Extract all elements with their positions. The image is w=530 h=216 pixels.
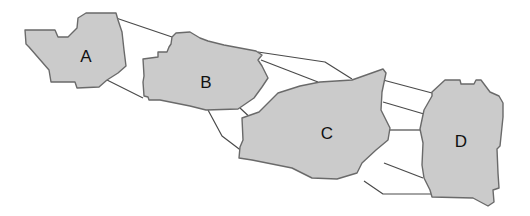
- link-b-c-top-1: [258, 52, 352, 79]
- region-diagram: A B C D: [0, 0, 530, 216]
- region-a-label: A: [80, 47, 92, 66]
- region-b-shape: [143, 32, 268, 110]
- region-b-label: B: [200, 73, 211, 92]
- link-a-b-bottom: [107, 80, 143, 98]
- link-a-b-top: [116, 18, 175, 38]
- link-c-d-5: [364, 181, 431, 194]
- region-d: D: [420, 80, 503, 206]
- link-c-d-1: [383, 80, 432, 93]
- region-d-label: D: [455, 132, 467, 151]
- region-a-shape: [25, 13, 126, 88]
- region-b: B: [143, 32, 268, 110]
- link-c-d-4: [384, 163, 423, 178]
- link-b-c-top-2: [261, 60, 318, 82]
- region-a: A: [25, 13, 126, 88]
- link-c-d-2: [383, 102, 424, 114]
- region-c-label: C: [321, 124, 333, 143]
